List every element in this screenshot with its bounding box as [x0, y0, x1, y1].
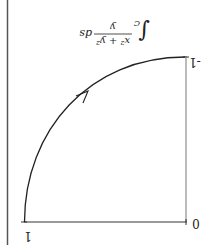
integral-subscript: C	[134, 19, 140, 28]
denominator: y	[110, 22, 117, 33]
numerator: x² + y²	[96, 36, 130, 47]
curve-c	[25, 57, 186, 222]
formula: ∫ C x² + y² y ds	[79, 19, 150, 47]
label-origin: 0	[192, 216, 200, 230]
label-x-end: 1	[24, 229, 32, 243]
differential: ds	[79, 27, 92, 40]
label-y-end: -1	[189, 55, 201, 69]
diagram: 0 1 -1 ∫ C x² + y² y ds	[0, 0, 208, 245]
